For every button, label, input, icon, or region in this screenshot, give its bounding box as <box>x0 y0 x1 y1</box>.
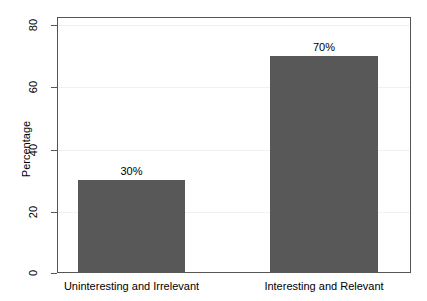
bar-uninteresting-and-irrelevant <box>78 180 185 273</box>
y-tick-label-80: 80 <box>27 10 39 40</box>
y-tick-label-60: 60 <box>27 72 39 102</box>
y-tick-mark-0 <box>51 273 57 274</box>
y-tick-mark-40 <box>51 150 57 151</box>
y-tick-label-0: 0 <box>27 258 39 288</box>
bar-chart: Percentage 0 20 40 60 80 30% 70% Uninter… <box>0 0 427 301</box>
y-tick-mark-80 <box>51 25 57 26</box>
y-tick-mark-20 <box>51 212 57 213</box>
y-tick-mark-60 <box>51 87 57 88</box>
y-tick-label-40: 40 <box>27 135 39 165</box>
x-tick-label-interesting-and-relevant: Interesting and Relevant <box>249 279 399 293</box>
y-tick-label-20: 20 <box>27 197 39 227</box>
bar-value-interesting-and-relevant: 70% <box>270 40 378 54</box>
bar-interesting-and-relevant <box>270 56 378 273</box>
bar-value-uninteresting-and-irrelevant: 30% <box>78 164 185 178</box>
x-tick-label-uninteresting-and-irrelevant: Uninteresting and Irrelevant <box>51 279 212 293</box>
